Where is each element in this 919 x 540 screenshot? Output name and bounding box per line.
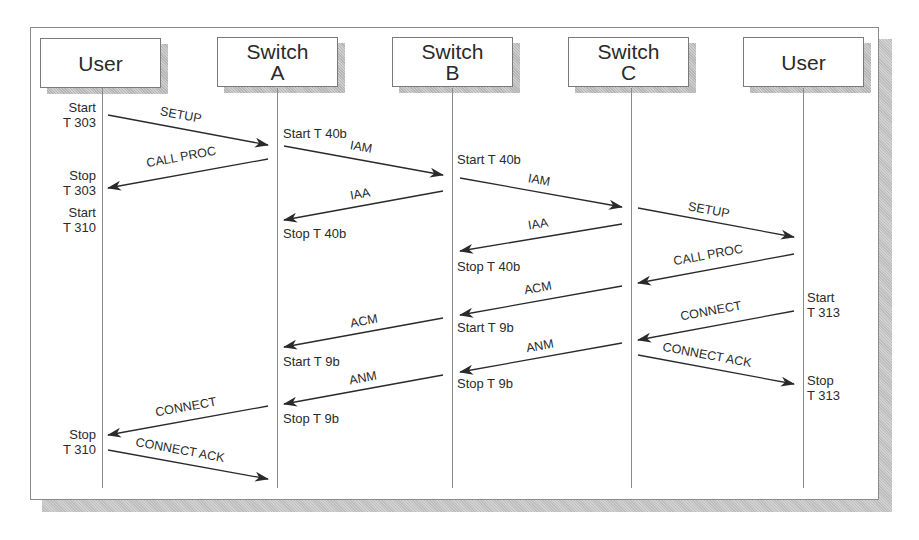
timer-note-line: Stop: [50, 168, 96, 183]
timer-note-a-stop-t40b: Stop T 40b: [283, 226, 346, 241]
sequence-diagram: User Switch A Switch B Switch C User: [0, 0, 919, 540]
timer-note-line: T 303: [50, 115, 96, 130]
timer-note-line: Start: [50, 100, 96, 115]
timer-note-line: Start: [807, 290, 840, 305]
timer-note-b-start-t9b: Start T 9b: [457, 320, 514, 335]
timer-note-line: T 313: [807, 305, 840, 320]
timer-note-line: T 310: [50, 442, 96, 457]
timer-note-line: T 310: [50, 220, 96, 235]
timer-note-start-t303: Start T 303: [50, 100, 96, 130]
timer-note-a-start-t9b: Start T 9b: [283, 354, 340, 369]
timer-note-start-t310: Start T 310: [50, 205, 96, 235]
timer-note-line: T 303: [50, 183, 96, 198]
timer-note-line: Start: [50, 205, 96, 220]
timer-note-stop-t310: Stop T 310: [50, 427, 96, 457]
timer-note-stop-t313: Stop T 313: [807, 373, 840, 403]
timer-note-start-t313: Start T 313: [807, 290, 840, 320]
timer-note-line: T 313: [807, 388, 840, 403]
timer-note-stop-t303: Stop T 303: [50, 168, 96, 198]
timer-note-b-stop-t40b: Stop T 40b: [457, 259, 520, 274]
timer-note-b-stop-t9b: Stop T 9b: [457, 376, 513, 391]
timer-note-a-stop-t9b: Stop T 9b: [283, 411, 339, 426]
timer-note-b-start-t40b: Start T 40b: [457, 152, 521, 167]
timer-note-line: Stop: [50, 427, 96, 442]
arrow-callproc-a: [108, 159, 268, 188]
timer-note-a-start-t40b: Start T 40b: [283, 126, 347, 141]
timer-note-line: Stop: [807, 373, 840, 388]
